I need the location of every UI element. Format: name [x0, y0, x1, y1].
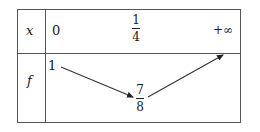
- decreasing-arrow-icon: [61, 67, 133, 97]
- variation-arrows: [0, 0, 260, 132]
- increasing-arrow-icon: [148, 55, 223, 97]
